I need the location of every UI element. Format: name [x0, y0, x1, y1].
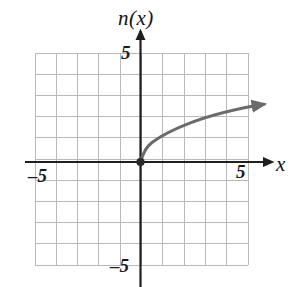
x-tick-label-negative-5: –5 — [28, 165, 47, 187]
y-tick-label-negative-5: –5 — [110, 255, 129, 277]
y-axis-label: n(x) — [118, 6, 154, 31]
coordinate-plane-svg — [0, 0, 301, 287]
curve-n-of-x — [136, 104, 264, 166]
sqrt-curve-path — [141, 104, 265, 162]
y-tick-label-positive-5: 5 — [121, 42, 131, 64]
origin-point-dot — [136, 158, 144, 166]
x-axis-label: x — [276, 152, 285, 177]
x-tick-label-positive-5: 5 — [236, 161, 246, 183]
graph-figure: n(x) x 5 –5 –5 5 — [0, 0, 301, 287]
